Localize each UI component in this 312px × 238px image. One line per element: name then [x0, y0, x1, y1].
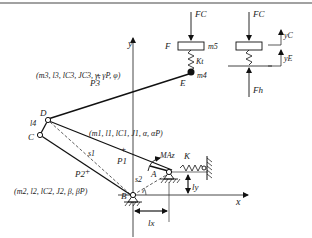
point-c-label: C [28, 132, 35, 142]
point-a-label: A [150, 169, 157, 179]
p2-marker: + [85, 166, 90, 176]
m5-label: m5 [208, 42, 218, 51]
lx-label: lx [148, 218, 155, 228]
joint-c [37, 132, 42, 137]
link1-params: (m1, l1, lC1, J1, α, αP) [89, 129, 163, 138]
mechanism-diagram: + + + y x (m3, l3, lC3, JC3, γ, γP, φ) (… [0, 0, 312, 238]
link3-params: (m3, l3, lC3, JC3, γ, γP, φ) [36, 71, 121, 80]
spring-k-label: K [183, 151, 191, 161]
point-d-label: D [39, 108, 47, 118]
x-axis-label: x [235, 196, 241, 207]
fc-label-left: FC [194, 9, 207, 19]
point-b-label: B [121, 191, 127, 201]
p1-label: P1 [116, 156, 127, 166]
point-e-label: E [179, 78, 186, 88]
yc-label: yC [283, 31, 294, 40]
spring-k [180, 165, 206, 171]
wall-support [207, 156, 212, 180]
y-axis-label: y [127, 38, 133, 49]
s1-label: s1 [88, 149, 95, 158]
p2-label: P2 [74, 169, 85, 179]
link4-label: l4 [30, 119, 36, 128]
p3-label: P3 [89, 78, 100, 88]
kt-label: Kt [195, 57, 204, 66]
ly-label: ly [192, 182, 199, 192]
fc-label-right: FC [252, 9, 265, 19]
joint-d [45, 117, 50, 122]
link2-params: (m2, l2, lC2, J2, β, βP) [14, 187, 88, 196]
fh-label: Fh [252, 85, 263, 95]
m4-label: m4 [197, 71, 207, 80]
moment-label: MAz [159, 151, 176, 160]
epsilon-label: ε [142, 187, 145, 195]
ye-label: yE [283, 54, 293, 63]
point-f-label: F [164, 41, 171, 51]
s2-label: s2 [135, 175, 142, 184]
p1-marker: + [121, 144, 126, 154]
